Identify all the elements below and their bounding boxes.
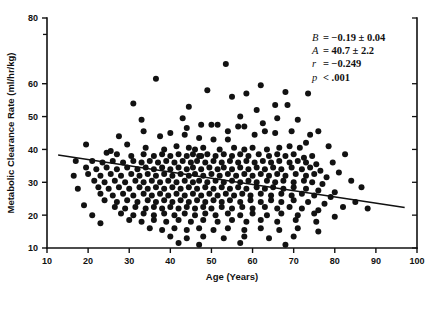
data-point xyxy=(276,158,282,164)
data-point xyxy=(225,171,231,177)
data-point xyxy=(215,166,221,172)
data-point xyxy=(326,143,332,149)
data-point xyxy=(171,212,177,218)
data-point xyxy=(145,186,151,192)
data-point xyxy=(231,145,237,151)
data-point xyxy=(227,197,233,203)
data-point xyxy=(319,181,325,187)
data-point xyxy=(223,61,229,67)
data-point xyxy=(83,142,89,148)
data-point xyxy=(215,192,221,198)
data-point xyxy=(182,132,188,138)
data-point xyxy=(108,171,114,177)
data-point xyxy=(202,184,208,190)
data-point xyxy=(278,166,284,172)
data-point xyxy=(163,219,169,225)
data-point xyxy=(167,153,173,159)
data-point xyxy=(155,160,161,166)
data-point xyxy=(174,179,180,185)
data-point xyxy=(274,151,280,157)
data-point xyxy=(278,191,284,197)
data-point xyxy=(215,122,221,128)
data-point xyxy=(239,204,245,210)
data-point xyxy=(303,140,309,146)
data-point xyxy=(225,211,231,217)
x-tick-label: 40 xyxy=(165,256,175,266)
data-point xyxy=(309,179,315,185)
data-point xyxy=(245,166,251,172)
data-point xyxy=(147,158,153,164)
data-point xyxy=(184,204,190,210)
data-point xyxy=(305,199,311,205)
data-point xyxy=(132,178,138,184)
data-point xyxy=(278,211,284,217)
data-point xyxy=(141,179,147,185)
data-point xyxy=(291,234,297,240)
data-point xyxy=(315,229,321,235)
data-point xyxy=(97,191,103,197)
data-point xyxy=(141,211,147,217)
data-point xyxy=(196,135,202,141)
data-point xyxy=(198,122,204,128)
data-point xyxy=(139,219,145,225)
data-point xyxy=(315,188,321,194)
data-point xyxy=(202,211,208,217)
data-point xyxy=(254,107,260,113)
data-point xyxy=(289,128,295,134)
data-point xyxy=(243,219,249,225)
data-point xyxy=(211,137,217,143)
data-point xyxy=(272,102,278,108)
data-point xyxy=(151,204,157,210)
data-point xyxy=(256,151,262,157)
data-point xyxy=(299,166,305,172)
y-tick-label: 80 xyxy=(28,13,38,23)
data-point xyxy=(237,114,243,120)
data-point xyxy=(332,214,338,220)
data-point xyxy=(141,151,147,157)
data-point xyxy=(309,153,315,159)
data-point xyxy=(250,145,256,151)
data-point xyxy=(200,234,206,240)
annotation-value: < .001 xyxy=(323,72,350,83)
data-point xyxy=(317,168,323,174)
data-point xyxy=(159,165,165,171)
data-point xyxy=(167,234,173,240)
data-point xyxy=(315,128,321,134)
data-point xyxy=(196,242,202,248)
data-point xyxy=(274,219,280,225)
data-point xyxy=(198,192,204,198)
data-point xyxy=(194,197,200,203)
data-point xyxy=(285,102,291,108)
data-point xyxy=(235,184,241,190)
x-tick-label: 80 xyxy=(330,256,340,266)
data-point xyxy=(262,204,268,210)
data-point xyxy=(184,166,190,172)
data-point xyxy=(153,76,159,82)
data-point xyxy=(186,104,192,110)
data-point xyxy=(274,115,280,121)
data-point xyxy=(95,184,101,190)
data-point xyxy=(313,219,319,225)
data-point xyxy=(130,192,136,198)
data-point xyxy=(180,115,186,121)
data-point xyxy=(176,217,182,223)
data-point xyxy=(248,197,254,203)
data-point xyxy=(311,211,317,217)
data-point xyxy=(159,151,165,157)
data-point xyxy=(295,225,301,231)
data-point xyxy=(169,173,175,179)
data-point xyxy=(264,178,270,184)
data-point xyxy=(157,179,163,185)
data-point xyxy=(282,89,288,95)
data-point xyxy=(303,160,309,166)
data-point xyxy=(75,186,81,192)
data-point xyxy=(243,91,249,97)
data-point xyxy=(258,199,264,205)
data-point xyxy=(108,148,114,154)
data-point xyxy=(217,146,223,152)
data-point xyxy=(221,165,227,171)
data-point xyxy=(182,178,188,184)
data-point xyxy=(307,132,313,138)
data-point xyxy=(165,192,171,198)
data-point xyxy=(91,178,97,184)
